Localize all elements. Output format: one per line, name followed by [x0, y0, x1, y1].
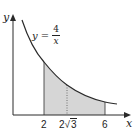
- equation-lhs: y =: [32, 31, 49, 41]
- fraction-numerator: 4: [53, 25, 59, 34]
- radicand: 3: [70, 118, 77, 130]
- tick-label-2: 2: [41, 120, 47, 130]
- y-axis-label: y: [3, 12, 9, 23]
- shaded-area: [44, 62, 105, 115]
- tick-label-2-root-3: 2√3: [59, 120, 77, 130]
- y-axis-arrow-icon: [10, 14, 16, 21]
- equation-fraction: 4 x: [52, 25, 60, 46]
- fraction-denominator: x: [53, 37, 58, 46]
- graph: [0, 0, 137, 133]
- tick-label-6: 6: [102, 120, 108, 130]
- coef: 2: [59, 119, 65, 130]
- x-axis-label: x: [126, 118, 132, 129]
